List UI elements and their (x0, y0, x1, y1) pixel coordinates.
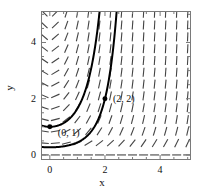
x-tick-label-0: 0 (43, 164, 57, 175)
point-2-2: (2, 2) (102, 93, 134, 105)
plot-canvas: (0, 1)(2, 2) (41, 11, 191, 160)
y-tick-label-1: 2 (20, 93, 36, 104)
x-tick-label-1: 2 (98, 164, 112, 175)
point-2-2-label: (2, 2) (113, 93, 135, 105)
solution-curves (41, 11, 119, 147)
y-tick-label-2: 4 (20, 36, 36, 47)
point-0-1-label: (0, 1) (58, 127, 80, 139)
y-tick-label-0: 0 (20, 149, 36, 160)
plot-area: (0, 1)(2, 2) (41, 11, 191, 160)
x-tick-label-2: 4 (153, 164, 167, 175)
x-axis-label: x (0, 176, 204, 188)
y-axis-label: y (3, 81, 15, 95)
figure: (0, 1)(2, 2) 024024 x y (0, 0, 204, 193)
